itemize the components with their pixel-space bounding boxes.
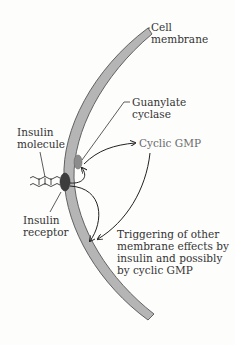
label-insulin-molecule: Insulin molecule xyxy=(17,126,65,150)
leader-insulin-molecule xyxy=(40,152,45,177)
insulin-signaling-diagram: Cell membrane Guanylate cyclase Cyclic G… xyxy=(0,0,235,345)
label-cell-membrane: Cell membrane xyxy=(151,21,208,45)
insulin-molecule-icon xyxy=(30,177,60,187)
label-guanylate-cyclase: Guanylate cyclase xyxy=(132,96,186,120)
insulin-receptor-shape xyxy=(60,173,70,191)
diagram-graphics xyxy=(0,0,235,345)
label-insulin-receptor: Insulin receptor xyxy=(23,214,69,238)
label-cyclic-gmp: Cyclic GMP xyxy=(139,137,201,149)
arrow-cgmp-to-membrane xyxy=(98,153,150,239)
guanylate-cyclase-shape xyxy=(74,155,82,169)
label-triggering-effects: Triggering of other membrane effects by … xyxy=(117,228,229,276)
cell-membrane xyxy=(64,28,154,320)
leader-insulin-receptor xyxy=(50,192,61,212)
